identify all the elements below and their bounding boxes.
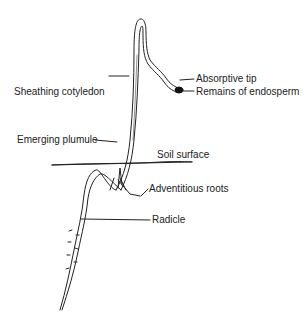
label-soil-surface: Soil surface — [157, 149, 209, 161]
endosperm — [175, 87, 183, 93]
seedling-drawing — [0, 0, 307, 320]
label-absorptive-tip: Absorptive tip — [196, 73, 257, 85]
label-adventitious-roots: Adventitious roots — [149, 183, 229, 195]
seedling-diagram: Absorptive tip Remains of endosperm Shea… — [0, 0, 307, 320]
cotyledon-outer — [116, 19, 178, 190]
label-emerging-plumule: Emerging plumule — [17, 134, 98, 146]
label-sheathing-cotyledon: Sheathing cotyledon — [14, 86, 105, 98]
cotyledon-inner — [121, 26, 176, 190]
label-remains-of-endosperm: Remains of endosperm — [196, 86, 299, 98]
label-radicle: Radicle — [152, 214, 185, 226]
